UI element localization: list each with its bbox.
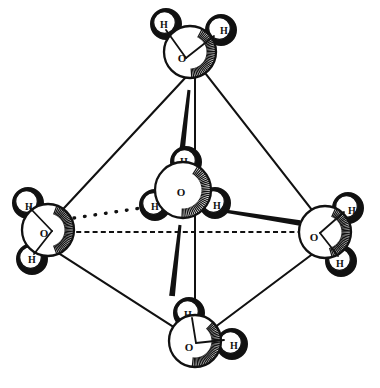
structure-svg: HHOHHOHHOHHOHHHO xyxy=(0,0,380,388)
hatch-line xyxy=(64,231,73,232)
oxygen-label: O xyxy=(178,52,187,64)
hydrogen-label: H xyxy=(160,19,168,30)
hatch-line xyxy=(201,188,210,189)
hatch-line xyxy=(206,53,215,54)
bottom-water-molecule: HHO xyxy=(169,298,247,367)
hydrogen-label: H xyxy=(336,258,344,269)
oxygen-label: O xyxy=(177,186,186,198)
center-water-molecule: HHHO xyxy=(140,147,230,220)
hatch-line xyxy=(206,50,215,51)
molecular-diagram-canvas: HHOHHOHHOHHOHHHO xyxy=(0,0,380,388)
hatch-line xyxy=(341,233,350,234)
bond-center-to-right xyxy=(218,209,301,226)
top-water-molecule: HHO xyxy=(151,9,236,78)
hatch-line xyxy=(64,228,73,229)
bond-center-to-left xyxy=(74,207,148,218)
oxygen-label: O xyxy=(185,341,194,353)
oxygen-label: O xyxy=(310,231,319,243)
oxygen-label: O xyxy=(40,227,49,239)
hydrogen-label: H xyxy=(28,254,36,265)
edge-bottom-right xyxy=(212,250,319,330)
hatch-line xyxy=(341,230,350,231)
bond-center-to-bottom xyxy=(169,225,181,296)
hydrogen-label: H xyxy=(220,25,228,36)
hatch-line xyxy=(211,342,220,343)
hatch-line xyxy=(191,68,192,77)
hydrogen-label: H xyxy=(348,205,356,216)
left-water-molecule: HHO xyxy=(13,188,74,274)
edge-bottom-left xyxy=(52,249,178,330)
hydrogen-label: H xyxy=(230,340,238,351)
hatch-line xyxy=(201,191,210,192)
hydrogen-label: H xyxy=(213,200,221,211)
